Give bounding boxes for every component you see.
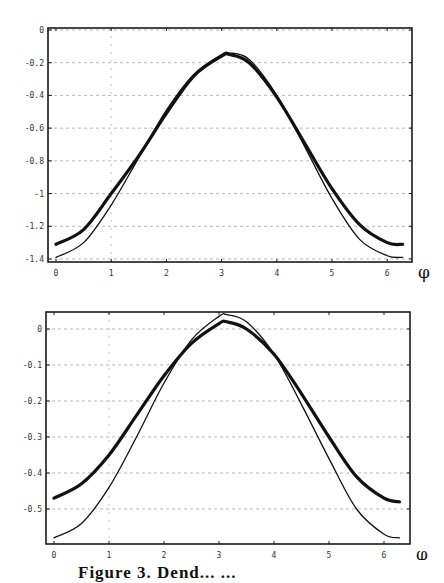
y-tick-label: -1.2 xyxy=(25,222,44,231)
x-tick-label: 1 xyxy=(107,551,112,560)
x-tick-label: 0 xyxy=(52,551,57,560)
y-tick-label: -0.2 xyxy=(23,397,42,406)
y-tick-label: -1.4 xyxy=(25,255,44,264)
thick-curve xyxy=(54,321,399,502)
x-tick-label: 4 xyxy=(274,269,279,278)
x-tick-label: 5 xyxy=(327,551,332,560)
y-tick-label: 0 xyxy=(37,325,42,334)
upper-chart: 0-0.2-0.4-0.6-0.8-1-1.2-1.40123456φ xyxy=(0,0,444,290)
x-axis-label: φ xyxy=(418,262,430,282)
lower-chart-canvas: 0-0.1-0.2-0.3-0.4-0.50123456φ xyxy=(0,290,444,560)
figure-caption: Figure 3. Dend... ... xyxy=(78,563,237,583)
x-tick-label: 6 xyxy=(382,551,387,560)
x-axis-label: φ xyxy=(416,544,428,560)
x-tick-label: 5 xyxy=(330,269,335,278)
y-tick-label: -0.6 xyxy=(25,124,44,133)
y-tick-label: 0 xyxy=(39,26,44,35)
y-tick-label: -0.8 xyxy=(25,157,44,166)
y-tick-label: -0.4 xyxy=(25,91,44,100)
thin-curve xyxy=(54,314,399,538)
x-tick-label: 6 xyxy=(385,269,390,278)
y-tick-label: -1 xyxy=(34,190,44,199)
thin-curve xyxy=(56,52,403,257)
x-tick-label: 4 xyxy=(272,551,277,560)
x-tick-label: 3 xyxy=(219,269,224,278)
x-tick-label: 3 xyxy=(217,551,222,560)
y-tick-label: -0.3 xyxy=(23,433,42,442)
y-tick-label: -0.4 xyxy=(23,469,42,478)
x-tick-label: 2 xyxy=(164,269,169,278)
y-tick-label: -0.1 xyxy=(23,361,42,370)
lower-chart: 0-0.1-0.2-0.3-0.4-0.50123456φ xyxy=(0,290,444,560)
plot-frame xyxy=(48,28,412,262)
thick-curve xyxy=(56,54,403,245)
y-tick-label: -0.2 xyxy=(25,59,44,68)
y-tick-label: -0.5 xyxy=(23,505,42,514)
x-tick-label: 2 xyxy=(162,551,167,560)
upper-chart-canvas: 0-0.2-0.4-0.6-0.8-1-1.2-1.40123456φ xyxy=(0,0,444,290)
x-tick-label: 1 xyxy=(109,269,114,278)
x-tick-label: 0 xyxy=(54,269,59,278)
